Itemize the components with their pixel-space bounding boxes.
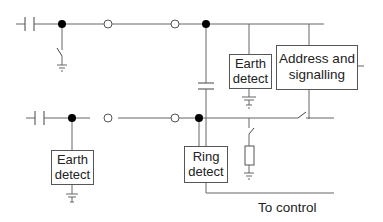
circuit-diagram xyxy=(0,0,383,222)
junction-node xyxy=(195,114,203,122)
to-control-label: To control xyxy=(258,200,317,215)
earth-detect-bottom-label: Earth detect xyxy=(51,152,94,182)
terminal-node xyxy=(171,114,179,122)
ring-detect-label: Ring detect xyxy=(184,149,228,179)
earth-detect-top-label: Earth detect xyxy=(229,56,272,86)
terminal-node xyxy=(104,20,112,28)
terminal-node xyxy=(104,114,112,122)
junction-node xyxy=(58,20,66,28)
junction-node xyxy=(202,20,210,28)
address-signalling-label: Address and signalling xyxy=(276,51,358,82)
junction-node xyxy=(68,114,76,122)
terminal-node xyxy=(171,20,179,28)
